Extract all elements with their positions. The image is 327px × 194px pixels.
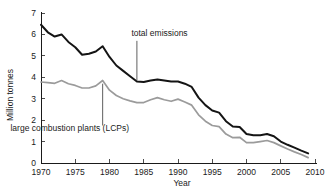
x-axis-title: Year [173, 178, 190, 188]
y-tick-label: 5 [31, 51, 36, 61]
y-tick-label: 6 [31, 29, 36, 39]
x-tick-label: 1970 [32, 167, 51, 177]
x-tick-label: 2000 [237, 167, 256, 177]
annotation-label-total-emissions: total emissions [131, 28, 187, 38]
series-line-large [41, 81, 308, 158]
y-axis-title: Million tonnes [5, 69, 15, 121]
x-tick-label: 2005 [271, 167, 290, 177]
series-line-total [41, 25, 308, 154]
x-tick-label: 1995 [203, 167, 222, 177]
y-tick-label: 7 [31, 8, 36, 18]
x-tick-label: 1990 [169, 167, 188, 177]
x-tick-label: 2010 [306, 167, 325, 177]
y-tick-label: 4 [31, 72, 36, 82]
x-tick-label: 1985 [134, 167, 153, 177]
y-tick-label: 3 [31, 94, 36, 104]
y-axis-ticks: 01234567 [31, 8, 45, 168]
x-tick-label: 1980 [100, 167, 119, 177]
x-axis-ticks: 197019751980198519901995200020052010 [32, 159, 325, 177]
x-tick-label: 1975 [66, 167, 85, 177]
y-tick-label: 1 [31, 137, 36, 147]
annotation-label-lcp: large combustion plants (LCPs) [10, 123, 129, 133]
chart-plot-area: 01234567 1970197519801985199019952000200… [0, 0, 327, 194]
emissions-line-chart: 01234567 1970197519801985199019952000200… [0, 0, 327, 194]
data-series-group [41, 25, 308, 158]
